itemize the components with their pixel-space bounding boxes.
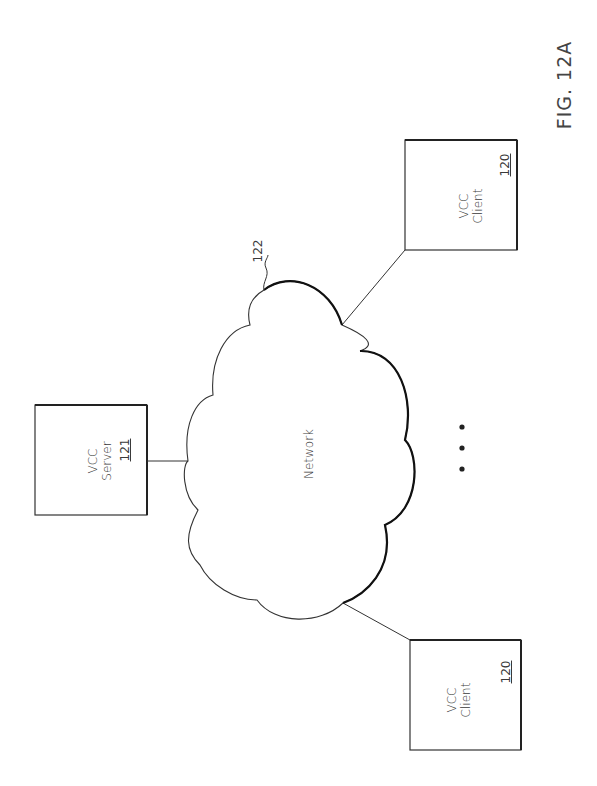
network-ref: 122: [251, 231, 265, 271]
client-top-ref: 120: [498, 145, 512, 185]
client-bottom-link: [343, 603, 410, 640]
ellipsis-dot: [459, 445, 464, 450]
client-bottom-ref: 120: [499, 652, 513, 692]
server-label: VCC: [86, 431, 100, 491]
ellipsis-dot: [459, 466, 464, 471]
client-top-label: VCC: [457, 176, 471, 236]
ellipsis-dot: [459, 424, 464, 429]
network-label: Network: [302, 414, 316, 494]
server-label-line2: Server: [100, 431, 114, 491]
client-top-link: [342, 250, 405, 325]
network-cloud: [184, 281, 414, 619]
figure-label: FIG. 12A: [553, 35, 575, 135]
client-top-label-line2: Client: [471, 176, 485, 236]
server-ref: 121: [118, 430, 132, 470]
client-bottom-label-line2: Client: [459, 670, 473, 730]
client-bottom-label: VCC: [445, 670, 459, 730]
